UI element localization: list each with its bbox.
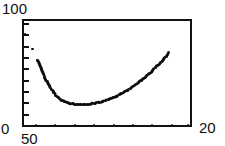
baseline-point	[74, 124, 76, 125]
data-point	[167, 51, 170, 54]
baseline-point	[35, 124, 37, 125]
data-point	[31, 48, 34, 51]
y-axis-tick	[24, 68, 29, 70]
y-axis-min-label: 0	[1, 121, 9, 136]
y-axis-max-label: 100	[2, 1, 27, 16]
baseline-point	[54, 124, 56, 125]
y-axis-tick	[24, 23, 29, 25]
x-axis-max-label: 20	[199, 120, 216, 135]
plot-area	[24, 21, 190, 125]
y-axis-tick	[24, 114, 29, 116]
y-axis-tick	[24, 102, 29, 104]
baseline-point	[93, 124, 95, 125]
baseline-point	[151, 124, 153, 125]
baseline-point	[171, 124, 173, 125]
y-axis-tick	[24, 80, 29, 82]
y-axis-tick	[24, 46, 29, 48]
baseline-point	[187, 124, 189, 125]
x-axis-min-label: 50	[21, 131, 38, 146]
chart-figure: 100 0 50 20	[0, 0, 225, 146]
y-axis-tick	[24, 57, 29, 59]
baseline-point	[113, 124, 115, 125]
y-axis-tick	[24, 91, 29, 93]
baseline-point	[132, 124, 134, 125]
plot-frame	[22, 19, 192, 127]
